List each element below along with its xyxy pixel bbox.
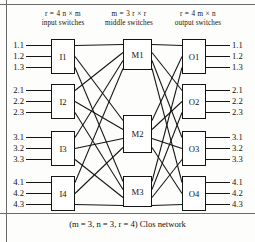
input-switch-i4[interactable]: I4 bbox=[51, 176, 75, 211]
middle-switch-m3[interactable]: M3 bbox=[123, 176, 152, 207]
input-switch-i1[interactable]: I1 bbox=[51, 39, 75, 74]
input-switch-i2[interactable]: I2 bbox=[51, 84, 75, 119]
output-switch-o4[interactable]: O4 bbox=[182, 176, 206, 211]
input-switch-i3[interactable]: I3 bbox=[51, 131, 75, 166]
output-switch-o3[interactable]: O3 bbox=[182, 131, 206, 166]
middle-switch-m1[interactable]: M1 bbox=[123, 39, 152, 70]
output-switch-o1[interactable]: O1 bbox=[182, 39, 206, 74]
middle-switch-m2[interactable]: M2 bbox=[123, 115, 152, 153]
output-switch-o2[interactable]: O2 bbox=[182, 84, 206, 119]
clos-network-figure: r = 4 n × m input switches m = 3 r × r m… bbox=[0, 0, 255, 242]
